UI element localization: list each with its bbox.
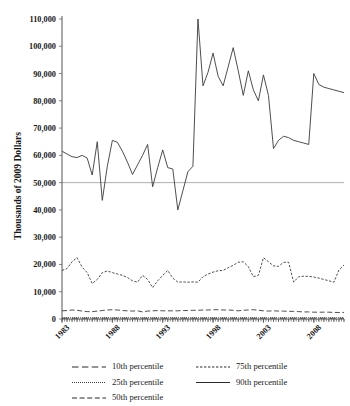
y-tick-label: 70,000 xyxy=(33,124,56,133)
x-axis-ticks: 198319881993199820032008 xyxy=(53,319,323,341)
y-tick-label: 80,000 xyxy=(33,97,56,106)
x-tick-label: 2003 xyxy=(255,323,273,341)
x-tick-label: 1998 xyxy=(204,323,222,341)
y-axis-title: Thousands of 2009 Dollars xyxy=(13,132,23,240)
line-chart: Thousands of 2009 Dollars 010,00020,0003… xyxy=(0,0,350,406)
y-axis-title-text: Thousands of 2009 Dollars xyxy=(13,132,23,240)
y-tick-label: 90,000 xyxy=(33,70,56,79)
y-axis-ticks: 010,00020,00030,00040,00050,00060,00070,… xyxy=(29,15,62,324)
series-90th-percentile xyxy=(62,19,344,210)
y-tick-label: 40,000 xyxy=(33,206,56,215)
legend-entry: 75th percentile xyxy=(196,361,287,371)
x-tick-label: 1988 xyxy=(104,323,122,341)
legend-entry: 50th percentile xyxy=(72,392,163,402)
y-tick-label: 10,000 xyxy=(33,288,56,297)
legend-entry: 10th percentile xyxy=(72,361,163,371)
legend-label: 50th percentile xyxy=(112,392,163,402)
series-group xyxy=(62,19,344,318)
y-tick-label: 110,000 xyxy=(29,15,56,24)
y-tick-label: 50,000 xyxy=(33,179,56,188)
legend-label: 75th percentile xyxy=(236,361,287,371)
y-tick-label: 0 xyxy=(52,315,56,324)
y-tick-label: 20,000 xyxy=(33,260,56,269)
x-tick-label: 2008 xyxy=(305,323,323,341)
y-tick-label: 30,000 xyxy=(33,233,56,242)
y-tick-label: 60,000 xyxy=(33,151,56,160)
x-tick-label: 1983 xyxy=(53,323,71,341)
chart-legend: 10th percentile25th percentile50th perce… xyxy=(72,361,287,402)
y-tick-label: 100,000 xyxy=(29,42,56,51)
legend-label: 25th percentile xyxy=(112,377,163,387)
series-75th-percentile xyxy=(62,258,344,288)
x-tick-label: 1993 xyxy=(154,323,172,341)
chart-figure: Thousands of 2009 Dollars 010,00020,0003… xyxy=(0,0,350,406)
legend-entry: 90th percentile xyxy=(196,377,287,387)
legend-label: 90th percentile xyxy=(236,377,287,387)
series-50th-percentile xyxy=(62,310,344,313)
legend-entry: 25th percentile xyxy=(72,377,163,387)
legend-label: 10th percentile xyxy=(112,361,163,371)
